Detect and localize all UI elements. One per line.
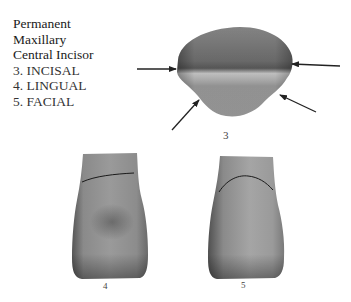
lingual-view [72,153,148,279]
tooth-diagram [0,0,351,302]
right-arrow-icon [292,64,340,66]
facial-view [208,156,284,279]
lower-right-arrow-icon [280,95,316,112]
lingual-figure-number: 4 [103,281,108,291]
lower-left-arrow-icon [172,100,199,130]
incisal-figure-number: 3 [223,129,229,141]
incisal-view [177,27,293,117]
facial-figure-number: 5 [241,280,246,290]
